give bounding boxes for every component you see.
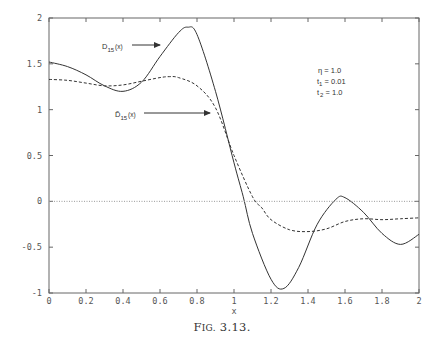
x-tick-label: 0.4 <box>115 296 130 306</box>
data-series <box>49 27 419 289</box>
annotation-d15-tilde-label: D̃15(x) <box>115 110 136 121</box>
y-tick-label: -0.5 <box>22 242 42 252</box>
parameter-box: η = 1.0 t1 = 0.01 t2 = 1.0 <box>317 66 346 98</box>
x-tick-label: 0.8 <box>189 296 204 306</box>
series-d15-tilde-line <box>49 77 419 232</box>
param-eta: η = 1.0 <box>318 66 341 75</box>
y-tick-label: 0.5 <box>27 151 42 161</box>
x-tick-label: 1.6 <box>337 296 352 306</box>
annotation-d15: D15(x) <box>102 42 160 53</box>
x-tick-label: 0.6 <box>152 296 167 306</box>
x-tick-label: 1.2 <box>263 296 278 306</box>
axis-tick-labels: 00.20.40.60.811.21.41.61.82-1-0.500.511.… <box>22 13 422 306</box>
x-tick-label: 1.8 <box>374 296 389 306</box>
y-tick-label: 2 <box>37 13 42 23</box>
x-tick-label: 2 <box>416 296 421 306</box>
annotation-d15-tilde: D̃15(x) <box>115 110 210 121</box>
x-tick-label: 1.4 <box>300 296 315 306</box>
figure-caption: FIG. 3.13. <box>0 320 444 334</box>
param-t2: t2 = 1.0 <box>317 88 342 98</box>
y-tick-label: 0 <box>37 196 42 206</box>
x-tick-label: 1 <box>231 296 236 306</box>
x-tick-label: 0.2 <box>78 296 93 306</box>
y-tick-label: -1 <box>32 288 42 298</box>
annotation-d15-label: D15(x) <box>102 42 123 53</box>
y-tick-label: 1 <box>37 105 42 115</box>
series-d15-line <box>49 27 419 289</box>
x-tick-label: 0 <box>46 296 51 306</box>
x-axis-label: x <box>231 306 236 316</box>
chart: 00.20.40.60.811.21.41.61.82-1-0.500.511.… <box>0 0 444 320</box>
param-t1: t1 = 0.01 <box>317 77 346 87</box>
y-tick-label: 1.5 <box>27 59 42 69</box>
